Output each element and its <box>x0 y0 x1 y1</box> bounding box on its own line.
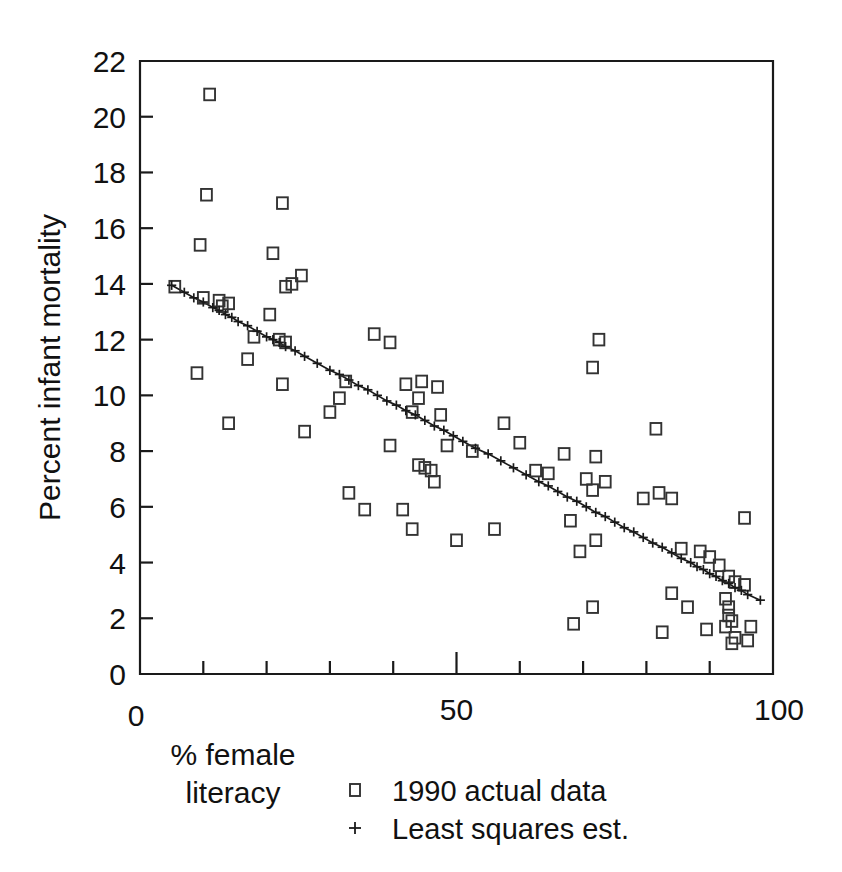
legend-label-text: Least squares est. <box>392 813 629 845</box>
x-tick-label: 50 <box>440 693 473 726</box>
chart-figure: 0246810121416182022 050100 Percent infan… <box>0 0 842 872</box>
y-tick-label: 20 <box>93 101 126 134</box>
chart-background <box>0 0 842 872</box>
y-tick-label: 2 <box>109 602 126 635</box>
x-tick-label: 100 <box>754 693 804 726</box>
y-tick-label: 8 <box>109 435 126 468</box>
y-tick-label: 18 <box>93 156 126 189</box>
y-tick-label: 12 <box>93 324 126 357</box>
y-tick-label: 22 <box>93 45 126 78</box>
x-axis-title-line: % female <box>170 738 295 771</box>
y-tick-label: 0 <box>109 658 126 691</box>
legend-label-text: 1990 actual data <box>392 775 607 807</box>
y-tick-label: 4 <box>109 547 126 580</box>
y-tick-label: 10 <box>93 379 126 412</box>
y-axis-title-text: Percent infant mortality <box>33 214 66 521</box>
y-tick-label: 14 <box>93 268 126 301</box>
x-tick-label: 0 <box>128 699 145 732</box>
y-tick-label: 16 <box>93 212 126 245</box>
scatter-chart: 0246810121416182022 050100 Percent infan… <box>0 0 842 872</box>
y-tick-label: 6 <box>109 491 126 524</box>
x-axis-title-line: literacy <box>185 776 280 809</box>
y-axis-title: Percent infant mortality <box>33 214 66 521</box>
